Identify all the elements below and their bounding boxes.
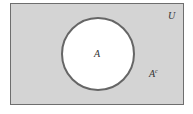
complement-label-superscript: c	[155, 68, 158, 74]
venn-diagram: U A Ac	[0, 0, 193, 114]
set-a-label: A	[94, 49, 100, 59]
universe-label: U	[168, 11, 175, 21]
complement-label: Ac	[149, 68, 158, 79]
